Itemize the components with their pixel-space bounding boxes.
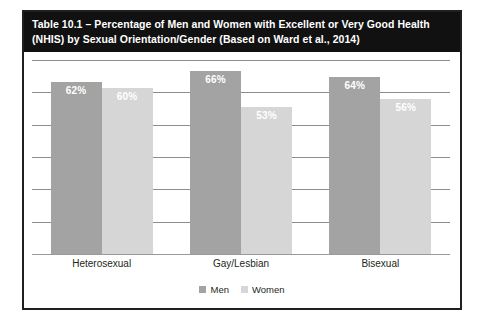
bar-group: 62%60% <box>32 60 171 254</box>
chart-panel: 62%60%66%53%64%56% HeterosexualGay/Lesbi… <box>24 52 460 308</box>
legend-label: Men <box>210 284 228 295</box>
bar-value-label: 56% <box>380 102 431 113</box>
figure-title-line-1: Table 10.1 – Percentage of Men and Women… <box>32 17 452 32</box>
bar-value-label: 66% <box>190 74 241 85</box>
figure-title: Table 10.1 – Percentage of Men and Women… <box>32 17 452 46</box>
category-label-bisexual: Bisexual <box>311 258 450 269</box>
figure-header-band: Table 10.1 – Percentage of Men and Women… <box>24 12 460 52</box>
chart-legend: MenWomen <box>24 284 460 295</box>
category-label-gay-lesbian: Gay/Lesbian <box>171 258 310 269</box>
plot-area: 62%60%66%53%64%56% <box>32 60 450 254</box>
bar-women-gay-lesbian: 53% <box>241 107 292 254</box>
legend-item-men: Men <box>199 284 228 295</box>
bar-women-bisexual: 56% <box>380 99 431 254</box>
bar-men-gay-lesbian: 66% <box>190 71 241 254</box>
figure-title-line-2: (NHIS) by Sexual Orientation/Gender (Bas… <box>32 32 452 47</box>
bar-value-label: 64% <box>329 80 380 91</box>
legend-swatch-icon <box>199 286 206 293</box>
bar-group: 66%53% <box>171 60 310 254</box>
category-axis: HeterosexualGay/LesbianBisexual <box>32 258 450 269</box>
legend-label: Women <box>252 284 285 295</box>
bar-group: 64%56% <box>311 60 450 254</box>
bar-women-heterosexual: 60% <box>102 88 153 254</box>
legend-item-women: Women <box>241 284 285 295</box>
legend-swatch-icon <box>241 286 248 293</box>
gridline <box>32 254 450 255</box>
bar-value-label: 62% <box>51 85 102 96</box>
figure-container: Table 10.1 – Percentage of Men and Women… <box>22 10 462 310</box>
bar-groups: 62%60%66%53%64%56% <box>32 60 450 254</box>
bar-value-label: 60% <box>102 91 153 102</box>
bar-men-bisexual: 64% <box>329 77 380 254</box>
bar-value-label: 53% <box>241 110 292 121</box>
category-label-heterosexual: Heterosexual <box>32 258 171 269</box>
bar-men-heterosexual: 62% <box>51 82 102 254</box>
